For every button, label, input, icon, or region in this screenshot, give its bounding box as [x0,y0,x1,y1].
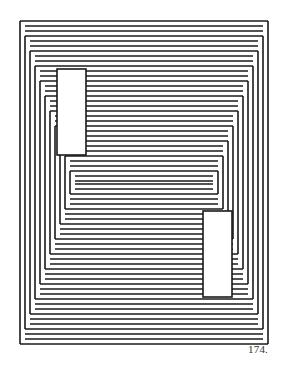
line-artwork [0,0,287,374]
plate-number: 174. [248,343,268,355]
lower-right-rectangle [203,211,232,297]
upper-left-rectangle [57,69,86,155]
